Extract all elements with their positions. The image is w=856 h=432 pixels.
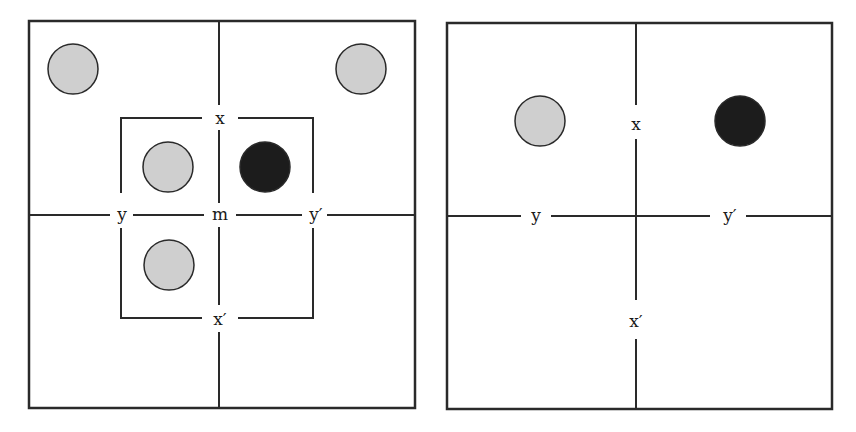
label-x-prime: x′ [629, 311, 643, 331]
label-x: x [631, 114, 641, 134]
label-y-prime: y′ [722, 205, 737, 225]
right-panel [447, 23, 832, 409]
label-y: y [530, 205, 541, 225]
inner-square-bottom-right [238, 228, 313, 318]
label-x-prime: x′ [213, 309, 227, 329]
gray-circle [336, 44, 386, 94]
right-panel-labels: x x′ y y′ [530, 114, 737, 331]
label-x: x [215, 108, 225, 128]
gray-circle [144, 240, 194, 290]
gray-circle [48, 44, 98, 94]
label-y: y [116, 204, 127, 224]
label-y-prime: y′ [308, 204, 323, 224]
label-m: m [212, 204, 228, 224]
gray-circle [515, 96, 565, 146]
left-panel-circles [48, 44, 386, 290]
black-circle [715, 96, 765, 146]
black-circle [240, 142, 290, 192]
diagram-canvas: x x′ y y′ m x x′ y y′ [0, 0, 856, 432]
gray-circle [143, 142, 193, 192]
